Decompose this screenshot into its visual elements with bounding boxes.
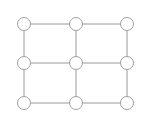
node-n22: [121, 97, 134, 110]
node-n12: [121, 57, 134, 70]
node-n10: [18, 57, 31, 70]
node-n02: [121, 18, 134, 31]
node-n11: [70, 57, 83, 70]
grid-graph-diagram: [0, 0, 145, 120]
node-n01: [70, 18, 83, 31]
node-n20: [18, 97, 31, 110]
node-n00: [18, 18, 31, 31]
node-n21: [70, 97, 83, 110]
